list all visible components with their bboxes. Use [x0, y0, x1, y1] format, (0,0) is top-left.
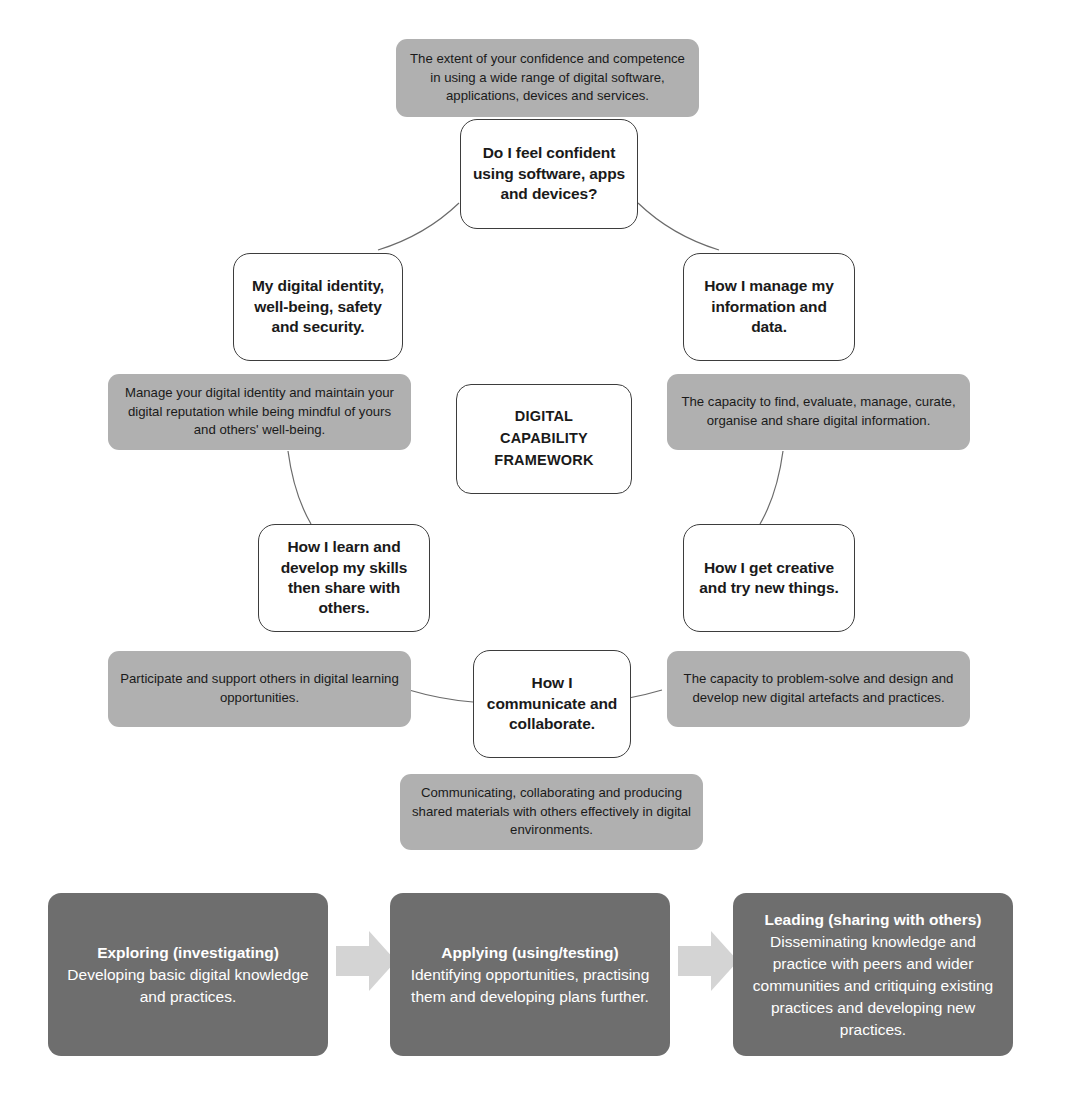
centre-label-line-1: DIGITAL [494, 406, 593, 428]
stage-exploring-title: Exploring (investigating) [60, 942, 316, 964]
node-information-data-label: How I manage my information and data. [693, 276, 845, 337]
stage-applying-title: Applying (using/testing) [402, 942, 658, 964]
description-information-data-text: The capacity to find, evaluate, manage, … [677, 393, 960, 430]
description-identity-wellbeing: Manage your digital identity and maintai… [108, 374, 411, 450]
stage-exploring[interactable]: Exploring (investigating) Developing bas… [48, 893, 328, 1056]
node-confidence-label: Do I feel confident using software, apps… [470, 143, 628, 204]
centre-label-line-3: FRAMEWORK [494, 450, 593, 472]
description-learn-develop: Participate and support others in digita… [108, 651, 411, 727]
description-confidence: The extent of your confidence and compet… [396, 39, 699, 117]
node-creative-label: How I get creative and try new things. [693, 558, 845, 599]
arc-information-to-creative [760, 451, 783, 524]
description-creative: The capacity to problem-solve and design… [667, 651, 970, 727]
stage-exploring-body: Developing basic digital knowledge and p… [60, 964, 316, 1008]
digital-capability-framework-diagram: The extent of your confidence and compet… [0, 0, 1071, 1114]
stage-leading-body: Disseminating knowledge and practice wit… [745, 931, 1001, 1041]
stage-leading[interactable]: Leading (sharing with others) Disseminat… [733, 893, 1013, 1056]
node-creative[interactable]: How I get creative and try new things. [683, 524, 855, 632]
arrow-applying-to-leading-icon [678, 930, 738, 992]
stage-applying-body: Identifying opportunities, practising th… [402, 964, 658, 1008]
node-identity-wellbeing-label: My digital identity, well-being, safety … [243, 276, 393, 337]
arc-identity-to-learn [288, 451, 311, 524]
description-creative-text: The capacity to problem-solve and design… [677, 670, 960, 707]
centre-node-framework: DIGITAL CAPABILITY FRAMEWORK [456, 384, 632, 494]
description-communicate-text: Communicating, collaborating and produci… [410, 784, 693, 840]
stage-applying[interactable]: Applying (using/testing) Identifying opp… [390, 893, 670, 1056]
description-confidence-text: The extent of your confidence and compet… [406, 50, 689, 106]
stage-leading-title: Leading (sharing with others) [745, 909, 1001, 931]
description-learn-develop-text: Participate and support others in digita… [118, 670, 401, 707]
centre-label-line-2: CAPABILITY [494, 428, 593, 450]
node-communicate-label: How I communicate and collaborate. [483, 673, 621, 734]
node-confidence[interactable]: Do I feel confident using software, apps… [460, 119, 638, 229]
node-learn-develop-label: How I learn and develop my skills then s… [268, 537, 420, 619]
arc-learn-to-communicate [409, 690, 473, 702]
node-information-data[interactable]: How I manage my information and data. [683, 253, 855, 361]
node-communicate[interactable]: How I communicate and collaborate. [473, 650, 631, 758]
arc-confidence-to-information [638, 203, 719, 250]
arc-confidence-to-identity [378, 203, 459, 250]
description-information-data: The capacity to find, evaluate, manage, … [667, 374, 970, 450]
description-communicate: Communicating, collaborating and produci… [400, 774, 703, 850]
description-identity-wellbeing-text: Manage your digital identity and maintai… [118, 384, 401, 440]
node-identity-wellbeing[interactable]: My digital identity, well-being, safety … [233, 253, 403, 361]
arrow-exploring-to-applying-icon [336, 930, 396, 992]
node-learn-develop[interactable]: How I learn and develop my skills then s… [258, 524, 430, 632]
